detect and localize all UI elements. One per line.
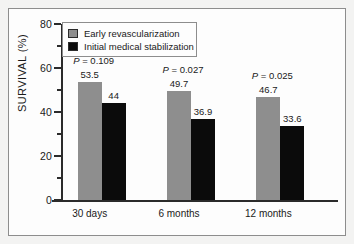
figure: SURVIVAL (%) 020406080 53.544P = 0.10949… — [0, 0, 354, 244]
y-tick-minor — [57, 89, 61, 91]
bar-30-days-series-0[interactable] — [78, 82, 102, 200]
y-tick-label: 80 — [40, 18, 52, 30]
y-tick-label: 0 — [46, 194, 52, 206]
bar-value-label: 49.7 — [170, 78, 189, 89]
p-value-annotation: P = 0.025 — [252, 70, 293, 81]
y-tick-minor — [57, 45, 61, 47]
bar-value-label: 53.5 — [80, 69, 99, 80]
x-tick-label: 30 days — [72, 208, 107, 219]
legend: Early revascularization Initial medical … — [62, 22, 197, 57]
y-tick-major — [54, 23, 61, 25]
legend-label-series-0: Early revascularization — [84, 28, 180, 39]
y-tick-label: 20 — [40, 150, 52, 162]
bar-6-months-series-0[interactable] — [167, 91, 191, 200]
legend-label-series-1: Initial medical stabilization — [84, 41, 194, 52]
legend-swatch-icon-series-0 — [68, 29, 78, 38]
bar-value-label: 44 — [108, 90, 119, 101]
x-tick-label: 12 months — [245, 208, 292, 219]
legend-item-early-revascularization: Early revascularization — [68, 27, 191, 39]
y-tick-major — [54, 111, 61, 113]
y-tick-major — [54, 155, 61, 157]
bar-value-label: 36.9 — [194, 106, 213, 117]
y-tick-minor — [57, 177, 61, 179]
p-value-annotation: P = 0.027 — [163, 64, 204, 75]
x-axis-line — [52, 200, 338, 202]
y-tick-major — [54, 199, 61, 201]
y-tick-label: 60 — [40, 62, 52, 74]
x-tick-label: 6 months — [158, 208, 199, 219]
y-axis-title: SURVIVAL (%) — [16, 34, 28, 112]
y-tick-minor — [57, 133, 61, 135]
bar-value-label: 46.7 — [259, 84, 278, 95]
legend-swatch-icon-series-1 — [68, 42, 78, 51]
bar-6-months-series-1[interactable] — [191, 119, 215, 200]
legend-item-initial-medical-stabilization: Initial medical stabilization — [68, 40, 191, 52]
bar-value-label: 33.6 — [283, 113, 302, 124]
bar-12-months-series-1[interactable] — [280, 126, 304, 200]
bar-30-days-series-1[interactable] — [102, 103, 126, 200]
y-tick-label: 40 — [40, 106, 52, 118]
bar-12-months-series-0[interactable] — [256, 97, 280, 200]
y-tick-major — [54, 67, 61, 69]
